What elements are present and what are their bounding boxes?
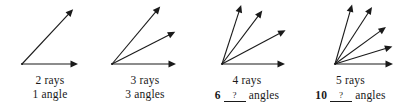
answer-count-value: 10 xyxy=(315,89,327,102)
rays-angles-figure: 2 rays 1 angle 3 rays 3 angles 4 rays 6 … xyxy=(0,0,403,111)
panel-label-angles-count: 10 ? angles xyxy=(298,88,403,102)
panel-label-rays-count: 5 rays xyxy=(298,74,403,87)
angles-count-row: 3 angles xyxy=(125,88,165,101)
diagram-panel-2-rays: 2 rays 1 angle xyxy=(0,0,100,111)
angles-text: 1 angle xyxy=(33,88,68,101)
angles-text: 3 angles xyxy=(125,88,165,101)
panel-label-angles-count: 3 angles xyxy=(95,88,195,101)
angles-text: angles xyxy=(355,89,386,102)
panel-label-angles-count: 1 angle xyxy=(0,88,100,101)
diagram-panel-5-rays: 5 rays 10 ? angles xyxy=(298,0,403,111)
answer-blank-field[interactable]: ? xyxy=(224,88,246,102)
angles-count-row: 10 ? angles xyxy=(315,88,386,102)
panel-label-rays-count: 2 rays xyxy=(0,74,100,87)
panel-label-rays-count: 4 rays xyxy=(192,74,302,87)
diagram-panel-4-rays: 4 rays 6 ? angles xyxy=(192,0,302,111)
question-mark-icon: ? xyxy=(330,91,352,100)
diagram-panel-3-rays: 3 rays 3 angles xyxy=(95,0,195,111)
answer-count-value: 6 xyxy=(215,89,221,102)
question-mark-icon: ? xyxy=(224,91,246,100)
angles-count-row: 1 angle xyxy=(33,88,68,101)
answer-blank-field[interactable]: ? xyxy=(330,88,352,102)
panel-label-angles-count: 6 ? angles xyxy=(192,88,302,102)
panel-label-rays-count: 3 rays xyxy=(95,74,195,87)
angles-text: angles xyxy=(249,89,280,102)
angles-count-row: 6 ? angles xyxy=(215,88,280,102)
